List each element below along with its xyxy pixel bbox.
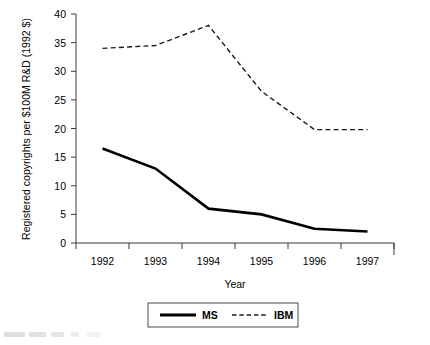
x-axis-group: 199219931994199519961997 Year [76, 243, 394, 290]
x-tick-label: 1996 [303, 255, 327, 267]
x-tick-label: 1993 [144, 255, 168, 267]
series-line-ms [103, 149, 368, 232]
plot-series-group [103, 25, 368, 231]
y-tick-label: 5 [60, 208, 66, 220]
y-axis-tick-labels: 0510152025303540 [54, 8, 66, 249]
line-chart-svg: 0510152025303540 Registered copyrights p… [0, 0, 430, 345]
legend: MS IBM [148, 303, 298, 327]
y-axis-tick-marks [71, 14, 76, 243]
chart-figure: 0510152025303540 Registered copyrights p… [0, 0, 430, 345]
x-tick-label: 1997 [356, 255, 380, 267]
x-tick-label: 1994 [197, 255, 221, 267]
x-axis-tick-labels: 199219931994199519961997 [91, 255, 380, 267]
y-tick-label: 0 [60, 237, 66, 249]
series-line-ibm [103, 25, 368, 129]
x-axis-tick-marks [76, 243, 394, 249]
y-tick-label: 20 [54, 123, 66, 135]
y-tick-label: 25 [54, 94, 66, 106]
y-axis-title: Registered copyrights per $100M R&D (199… [20, 18, 32, 240]
page-footer-artifact [4, 332, 100, 337]
legend-label-ms: MS [202, 309, 218, 321]
x-tick-label: 1995 [250, 255, 274, 267]
y-tick-label: 35 [54, 37, 66, 49]
legend-label-ibm: IBM [274, 309, 294, 321]
y-tick-label: 10 [54, 180, 66, 192]
y-tick-label: 15 [54, 151, 66, 163]
y-tick-label: 40 [54, 8, 66, 20]
y-tick-label: 30 [54, 65, 66, 77]
x-tick-label: 1992 [91, 255, 115, 267]
x-axis-title: Year [224, 278, 246, 290]
y-axis-group: 0510152025303540 Registered copyrights p… [20, 8, 76, 249]
